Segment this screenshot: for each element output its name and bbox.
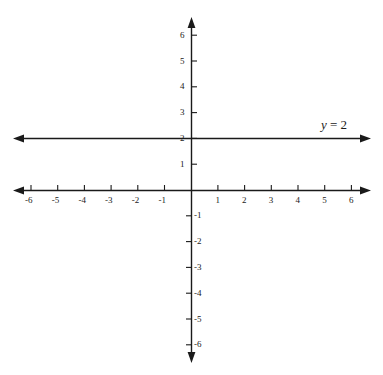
line-y-2-right-arrowhead [360, 135, 371, 143]
y-tick-label--1: -1 [194, 211, 202, 220]
line-equation-label: y = 2 [321, 118, 347, 131]
y-tick-label-4: 4 [180, 82, 185, 91]
x-tick-label--1: -1 [159, 196, 167, 205]
line-y-2-left-arrowhead [13, 135, 24, 143]
x-axis-left-arrowhead [13, 187, 24, 195]
y-axis-top-arrowhead [188, 17, 196, 28]
y-tick-label--3: -3 [194, 263, 202, 272]
x-tick-label-3: 3 [269, 196, 274, 205]
coordinate-plane-svg [0, 0, 383, 375]
x-tick-label-4: 4 [296, 196, 301, 205]
y-tick-label--6: -6 [194, 340, 202, 349]
x-tick-label--5: -5 [52, 196, 60, 205]
y-axis-bottom-arrowhead [188, 352, 196, 363]
y-tick-label-6: 6 [180, 31, 185, 40]
line-equation-relation: = 2 [327, 117, 347, 132]
y-tick-label-5: 5 [180, 57, 185, 66]
coordinate-plane-figure: -6 -5 -4 -3 -2 -1 1 2 3 4 5 6 6 5 4 3 2 … [0, 0, 383, 375]
x-tick-label-1: 1 [215, 196, 220, 205]
y-tick-label-1: 1 [180, 160, 185, 169]
y-tick-label--2: -2 [194, 237, 202, 246]
x-tick-label--2: -2 [132, 196, 140, 205]
x-tick-label-5: 5 [322, 196, 327, 205]
x-tick-label--6: -6 [25, 196, 33, 205]
y-tick-label--5: -5 [194, 315, 202, 324]
x-tick-label-6: 6 [349, 196, 354, 205]
x-tick-label--4: -4 [78, 196, 86, 205]
x-tick-label--3: -3 [105, 196, 113, 205]
y-tick-label-3: 3 [180, 108, 185, 117]
x-axis-right-arrowhead [360, 187, 371, 195]
y-tick-label-2: 2 [180, 134, 185, 143]
x-tick-label-2: 2 [242, 196, 247, 205]
y-tick-label--4: -4 [194, 289, 202, 298]
